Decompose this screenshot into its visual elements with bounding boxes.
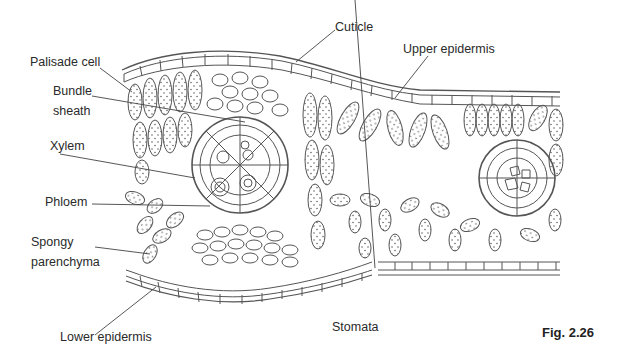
label-bundle-sheath-line1: Bundle xyxy=(53,84,92,98)
lower-epidermis xyxy=(126,262,560,304)
label-xylem: Xylem xyxy=(50,139,85,153)
leader-xylem xyxy=(60,154,195,178)
leader-cuticle xyxy=(296,30,335,62)
figure-caption: Fig. 2.26 xyxy=(542,325,594,340)
mesophyll-cells xyxy=(207,72,288,116)
leader-palisade xyxy=(100,68,132,92)
lower-mesophyll-cells xyxy=(192,225,298,267)
leader-lower-epidermis xyxy=(95,287,156,335)
leaf-section-diagram: Cuticle Upper epidermis Palisade cell Bu… xyxy=(0,0,619,363)
label-palisade-cell: Palisade cell xyxy=(30,55,100,69)
leader-lines xyxy=(60,0,428,335)
label-lower-epidermis: Lower epidermis xyxy=(60,330,152,344)
spongy-parenchyma xyxy=(124,189,561,266)
label-cuticle: Cuticle xyxy=(335,20,373,34)
palisade-cells xyxy=(128,70,563,249)
label-spongy-line1: Spongy xyxy=(31,235,73,249)
leader-spongy xyxy=(95,247,150,254)
vascular-bundle-main xyxy=(192,117,288,213)
vascular-bundle-minor xyxy=(479,140,555,216)
label-stomata: Stomata xyxy=(332,320,379,334)
label-phloem: Phloem xyxy=(45,195,87,209)
label-bundle-sheath-line2: sheath xyxy=(53,104,91,118)
label-spongy-line2: parenchyma xyxy=(31,255,100,269)
label-upper-epidermis: Upper epidermis xyxy=(403,42,495,56)
leader-upper-epidermis xyxy=(395,56,428,98)
